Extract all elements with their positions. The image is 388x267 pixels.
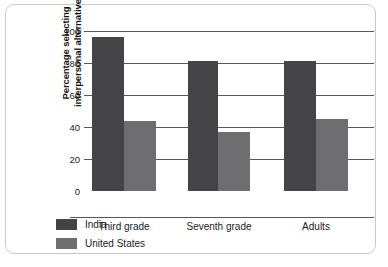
y-tick-60: 60 — [54, 91, 80, 101]
bar-united-states-seventh-grade — [218, 132, 250, 191]
x-label-adults: Adults — [276, 221, 356, 232]
chart-frame: Percentage selecting interpersonal alter… — [5, 4, 376, 254]
bar-india-adults — [284, 61, 316, 191]
bar-united-states-adults — [316, 119, 348, 191]
bar-india-third-grade — [92, 37, 124, 191]
plot-area: Third grade Seventh grade Adults — [84, 31, 374, 191]
legend-swatch-united-states-icon — [56, 238, 77, 249]
y-tick-40: 40 — [54, 123, 80, 133]
y-tick-20: 20 — [54, 155, 80, 165]
legend-label-united-states: United States — [85, 238, 145, 249]
gridline-60 — [84, 95, 374, 96]
gridline-100 — [84, 31, 374, 32]
gridline-80 — [84, 63, 374, 64]
y-tick-80: 80 — [54, 59, 80, 69]
y-axis-tick-labels: 100 80 60 40 20 0 — [52, 5, 80, 205]
bar-united-states-third-grade — [124, 121, 156, 191]
legend: India United States — [56, 216, 145, 254]
y-tick-100: 100 — [54, 27, 80, 37]
legend-swatch-india-icon — [56, 219, 77, 230]
bar-india-seventh-grade — [188, 61, 218, 191]
legend-label-india: India — [85, 219, 107, 230]
legend-item-united-states: United States — [56, 235, 145, 251]
x-label-seventh-grade: Seventh grade — [176, 221, 262, 232]
figure-container: Percentage selecting interpersonal alter… — [0, 0, 388, 267]
legend-item-india: India — [56, 216, 145, 232]
y-tick-0: 0 — [54, 187, 80, 197]
